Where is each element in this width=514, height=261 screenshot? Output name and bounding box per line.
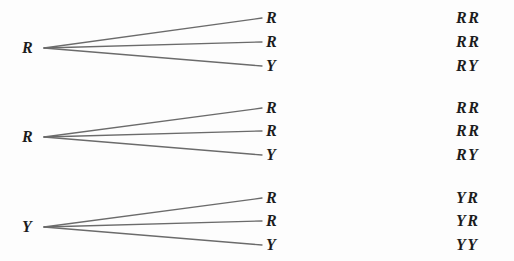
branch-line-group-1-branch-3 <box>44 48 262 66</box>
genotype-label-group-2-branch-2: RR <box>456 123 480 139</box>
genotype-label-group-3-branch-2: YR <box>456 213 479 229</box>
genotype-label-group-3-branch-1: YR <box>456 190 479 206</box>
parent-allele-label-group-3: Y <box>22 219 32 235</box>
child-allele-label-group-3-branch-2: R <box>266 213 277 229</box>
genotype-label-group-1-branch-1: RR <box>456 10 480 26</box>
branch-line-group-3-branch-1 <box>44 198 262 227</box>
genotype-label-group-3-branch-3: YY <box>456 237 479 253</box>
child-allele-label-group-1-branch-3: Y <box>266 58 276 74</box>
punnett-branch-diagram: R R R Y RR RR RY R R R Y RR RR RY Y R R … <box>0 0 514 261</box>
branch-line-group-3-branch-3 <box>44 227 262 245</box>
branch-lines-layer <box>0 0 514 261</box>
child-allele-label-group-2-branch-2: R <box>266 123 277 139</box>
child-allele-label-group-3-branch-1: R <box>266 190 277 206</box>
child-allele-label-group-1-branch-2: R <box>266 34 277 50</box>
genotype-label-group-1-branch-2: RR <box>456 34 480 50</box>
branch-line-group-2-branch-2 <box>44 131 262 137</box>
branch-line-group-3-branch-2 <box>44 221 262 227</box>
genotype-label-group-2-branch-1: RR <box>456 100 480 116</box>
child-allele-label-group-2-branch-1: R <box>266 100 277 116</box>
parent-allele-label-group-1: R <box>22 40 33 56</box>
genotype-label-group-1-branch-3: RY <box>456 58 479 74</box>
child-allele-label-group-1-branch-1: R <box>266 10 277 26</box>
genotype-label-group-2-branch-3: RY <box>456 147 479 163</box>
child-allele-label-group-3-branch-3: Y <box>266 237 276 253</box>
parent-allele-label-group-2: R <box>22 129 33 145</box>
child-allele-label-group-2-branch-3: Y <box>266 147 276 163</box>
branch-line-group-2-branch-1 <box>44 108 262 137</box>
branch-line-group-2-branch-3 <box>44 137 262 155</box>
